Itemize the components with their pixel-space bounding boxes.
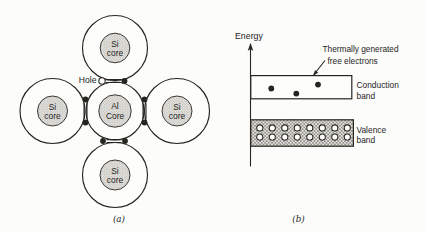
si-bottom-core-label: core	[107, 175, 124, 185]
valence-electron-dot	[344, 125, 350, 131]
panel-b-energy-band-diagram: Energy Thermally generated free electron…	[235, 31, 399, 224]
panel-a-lattice-diagram: Si core Si core Al Core Si core Si core …	[20, 16, 210, 224]
valence-electron-dot	[282, 134, 288, 140]
valence-electron-dot	[307, 134, 313, 140]
si-left-core-label: core	[44, 111, 61, 121]
valence-electron-dot	[319, 125, 325, 131]
conduction-band-label-line1: Conduction	[357, 80, 400, 90]
si-top-core-label: core	[107, 48, 124, 58]
free-electron-dot	[315, 82, 321, 88]
si-left-symbol-label: Si	[49, 102, 57, 112]
annotation-line1: Thermally generated	[323, 44, 399, 54]
valence-electron-dot	[344, 134, 350, 140]
bond-bottom	[107, 140, 122, 143]
valence-electron-dot	[307, 125, 313, 131]
si-bottom-symbol-label: Si	[111, 166, 119, 176]
textbook-figure: Si core Si core Al Core Si core Si core …	[0, 0, 425, 232]
si-top-symbol-label: Si	[111, 39, 119, 49]
caption-a: (a)	[113, 214, 126, 224]
valence-electron-dot	[257, 134, 263, 140]
annotation-arrow-line	[316, 61, 326, 73]
valence-band-label-line1: Valence	[357, 125, 387, 135]
free-electron-dot	[293, 91, 299, 97]
electron-dot	[122, 78, 128, 84]
electron-dot	[142, 120, 148, 126]
valence-electron-dot	[269, 125, 275, 131]
valence-electron-dot	[269, 134, 275, 140]
valence-electron-dot	[319, 134, 325, 140]
si-right-core-label: core	[169, 111, 186, 121]
valence-electron-dot	[332, 125, 338, 131]
annotation-line2: free electrons	[328, 56, 378, 66]
conduction-band-rect	[251, 76, 352, 99]
al-core-label: Core	[106, 111, 124, 121]
electron-dot	[100, 138, 106, 144]
hole-label: Hole	[79, 75, 97, 85]
valence-electron-dot	[332, 134, 338, 140]
valence-electron-dot	[282, 125, 288, 131]
valence-band-rect	[251, 120, 354, 146]
hole-dot	[99, 78, 105, 84]
conduction-band-label-line2: band	[357, 91, 376, 101]
energy-axis-label: Energy	[235, 31, 263, 41]
al-symbol-label: Al	[111, 101, 119, 111]
si-right-symbol-label: Si	[173, 102, 181, 112]
electron-dot	[83, 120, 89, 126]
electron-dot	[122, 138, 128, 144]
figure-svg: Si core Si core Al Core Si core Si core …	[0, 0, 425, 232]
electron-dot	[142, 97, 148, 103]
valence-electron-dot	[294, 125, 300, 131]
electron-dot	[83, 97, 89, 103]
valence-band-label-line2: band	[357, 135, 376, 145]
valence-electron-dot	[294, 134, 300, 140]
valence-electron-dot	[257, 125, 263, 131]
free-electron-dot	[268, 86, 274, 92]
caption-b: (b)	[292, 214, 305, 224]
